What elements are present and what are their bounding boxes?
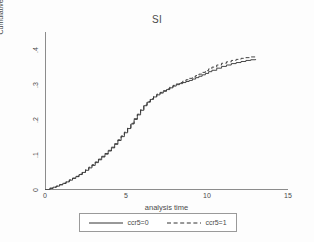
x-axis-tick-label: 0 (35, 192, 55, 199)
axes-group (45, 32, 288, 190)
plot-area (45, 32, 288, 190)
y-axis-tick-label: .4 (29, 45, 43, 55)
plot-svg (45, 32, 288, 190)
chart-title: SI (0, 14, 314, 25)
legend-label: ccr5=0 (127, 219, 148, 226)
figure-canvas: SI Cumulative Incidence 0.1.2.3.4 051015… (0, 0, 314, 242)
y-axis-tick-label-text: .2 (31, 113, 41, 127)
series-line-ccr5-1 (45, 57, 256, 190)
y-axis-tick-label-text: .3 (31, 78, 41, 92)
x-axis-title-label: analysis time (145, 203, 188, 212)
legend-entry-ccr5-1[interactable]: ccr5=1 (167, 219, 226, 226)
y-axis-title: Cumulative Incidence (0, 0, 4, 56)
series-group (45, 57, 256, 190)
x-axis-tick-label: 10 (197, 192, 217, 199)
x-axis-tick-label: 15 (278, 192, 298, 199)
x-axis-tick-label: 5 (116, 192, 136, 199)
y-axis-title-label: Cumulative Incidence (0, 0, 4, 34)
legend-entry-ccr5-0[interactable]: ccr5=0 (89, 219, 148, 226)
series-line-ccr5-0 (45, 59, 256, 190)
solid-line-icon (89, 220, 123, 226)
dashed-line-icon (167, 220, 201, 226)
y-axis-tick-label: .1 (29, 150, 43, 160)
x-axis-title: analysis time (45, 203, 288, 212)
y-axis-tick-label: .3 (29, 80, 43, 90)
legend-label: ccr5=1 (205, 219, 226, 226)
y-axis-tick-label-text: .1 (31, 148, 41, 162)
y-axis-tick-label: .2 (29, 115, 43, 125)
y-axis-tick-label-text: .4 (31, 43, 41, 57)
chart-legend[interactable]: ccr5=0ccr5=1 (79, 213, 237, 232)
